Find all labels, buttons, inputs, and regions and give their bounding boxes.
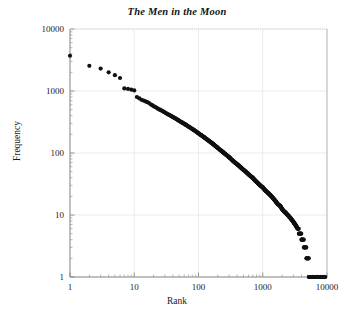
- minor-tick-marks: [70, 32, 324, 277]
- gridlines: [70, 29, 327, 277]
- data-point-cloud: [68, 54, 327, 279]
- y-axis-label: Frequency: [12, 96, 22, 186]
- data-point: [68, 54, 72, 58]
- data-point: [132, 88, 136, 92]
- data-point: [307, 256, 311, 260]
- y-tick-label: 1: [60, 272, 65, 282]
- y-tick-label: 1000: [46, 86, 65, 96]
- data-point: [299, 232, 303, 236]
- x-tick-label: 10: [130, 282, 140, 292]
- data-point: [107, 70, 111, 74]
- data-point: [304, 245, 308, 249]
- data-point: [99, 66, 103, 70]
- x-tick-label: 10000: [316, 282, 339, 292]
- data-point: [323, 275, 327, 279]
- data-point: [118, 76, 122, 80]
- data-point: [302, 238, 306, 242]
- data-point: [122, 86, 126, 90]
- scatter-plot: 110100100010000110100100010000: [0, 0, 354, 322]
- figure-container: The Men in the Moon 11010010001000011010…: [0, 0, 354, 322]
- y-tick-label: 10: [55, 210, 65, 220]
- data-point: [113, 73, 117, 77]
- x-axis-label: Rank: [0, 296, 354, 306]
- x-tick-label: 1000: [254, 282, 273, 292]
- x-tick-label: 1: [68, 282, 73, 292]
- data-point: [297, 227, 301, 231]
- tick-labels: 110100100010000110100100010000: [42, 24, 339, 292]
- y-tick-label: 100: [51, 148, 65, 158]
- y-tick-label: 10000: [42, 24, 65, 34]
- data-point: [87, 64, 91, 68]
- x-tick-label: 100: [192, 282, 206, 292]
